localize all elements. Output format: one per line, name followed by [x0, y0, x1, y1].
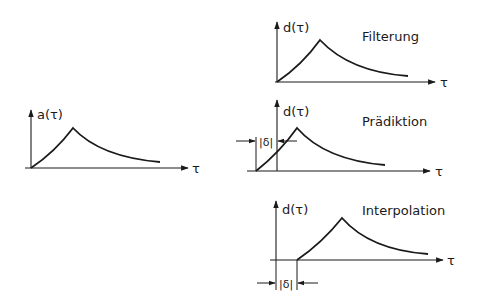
interpolation-delta-label: |δ| [279, 278, 293, 291]
input-plot: a(τ) τ [25, 107, 200, 176]
filterung-plot: d(τ) Filterung τ [275, 20, 448, 90]
input-x-label: τ [192, 161, 200, 176]
input-y-label: a(τ) [37, 107, 63, 122]
input-signal-curve [31, 128, 160, 168]
praediktion-y-label: d(τ) [283, 104, 309, 119]
praediktion-plot: |δ| d(τ) Prädiktion τ [236, 100, 443, 179]
interpolation-plot: |δ| d(τ) Interpolation τ [257, 201, 455, 291]
praediktion-x-label: τ [435, 164, 443, 179]
interpolation-y-label: d(τ) [282, 202, 308, 217]
diagram-canvas: a(τ) τ d(τ) Filterung τ |δ| d(τ) Prädikt… [0, 0, 485, 307]
filterung-title: Filterung [362, 29, 419, 44]
praediktion-signal-curve [256, 128, 385, 171]
praediktion-title: Prädiktion [362, 114, 427, 129]
filterung-x-label: τ [440, 75, 448, 90]
interpolation-x-label: τ [447, 253, 455, 268]
interpolation-title: Interpolation [362, 203, 445, 218]
filterung-y-label: d(τ) [283, 20, 309, 35]
filterung-signal-curve [277, 40, 408, 82]
interpolation-signal-curve [297, 218, 428, 260]
praediktion-delta-label: |δ| [259, 136, 273, 149]
